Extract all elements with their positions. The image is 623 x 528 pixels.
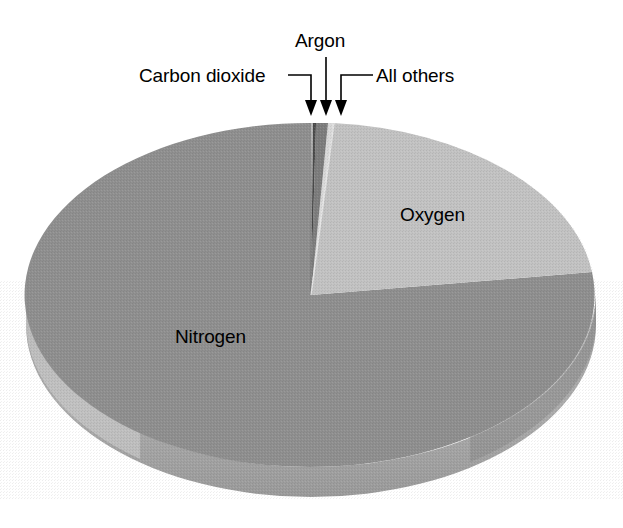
leader-line-carbon-dioxide bbox=[288, 75, 311, 101]
top-face-texture bbox=[26, 123, 596, 467]
arrowhead-all-others bbox=[335, 100, 347, 116]
pie-top-face bbox=[25, 123, 596, 467]
slice-label-nitrogen: Nitrogen bbox=[175, 327, 246, 346]
pie-chart-canvas bbox=[0, 0, 623, 528]
pie-chart-figure: Carbon dioxide Argon All others Oxygen N… bbox=[0, 0, 623, 528]
slice-label-oxygen: Oxygen bbox=[400, 205, 465, 224]
callout-label-argon: Argon bbox=[295, 31, 345, 50]
arrowhead-carbon-dioxide bbox=[305, 100, 317, 116]
callout-label-all-others: All others bbox=[376, 66, 454, 85]
callout-label-carbon-dioxide: Carbon dioxide bbox=[139, 66, 265, 85]
callout-leader-lines bbox=[288, 57, 373, 101]
callout-arrowheads bbox=[305, 100, 347, 116]
leader-line-all-others bbox=[341, 75, 373, 101]
arrowhead-argon bbox=[320, 100, 332, 116]
